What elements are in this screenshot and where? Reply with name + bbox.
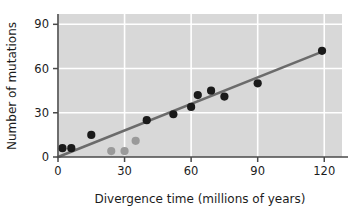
data-point [87, 131, 95, 139]
x-tick-label: 60 [184, 164, 199, 178]
chart-svg: 0306090120 0306090 Divergence time (mill… [0, 0, 358, 219]
x-tick-label: 120 [313, 164, 335, 178]
x-axis-title: Divergence time (millions of years) [95, 192, 306, 206]
data-point [67, 144, 75, 152]
data-point [143, 116, 151, 124]
data-point [107, 147, 115, 155]
data-point [187, 103, 195, 111]
data-point [194, 91, 202, 99]
plot-area-background [58, 14, 342, 157]
y-axis-title: Number of mutations [5, 22, 19, 150]
data-point [220, 92, 228, 100]
y-tick-label: 90 [34, 17, 49, 31]
y-tick-label: 0 [42, 150, 49, 164]
y-tick-label: 60 [34, 62, 49, 76]
scatter-plot-figure: 0306090120 0306090 Divergence time (mill… [0, 0, 358, 219]
data-point [169, 110, 177, 118]
data-point [132, 137, 140, 145]
x-tick-label: 0 [54, 164, 61, 178]
data-point [58, 144, 66, 152]
data-point [207, 87, 215, 95]
y-tick-label: 30 [34, 106, 49, 120]
x-tick-label: 30 [117, 164, 132, 178]
data-point [254, 79, 262, 87]
data-point [120, 147, 128, 155]
data-point [318, 47, 326, 55]
x-tick-label: 90 [250, 164, 265, 178]
